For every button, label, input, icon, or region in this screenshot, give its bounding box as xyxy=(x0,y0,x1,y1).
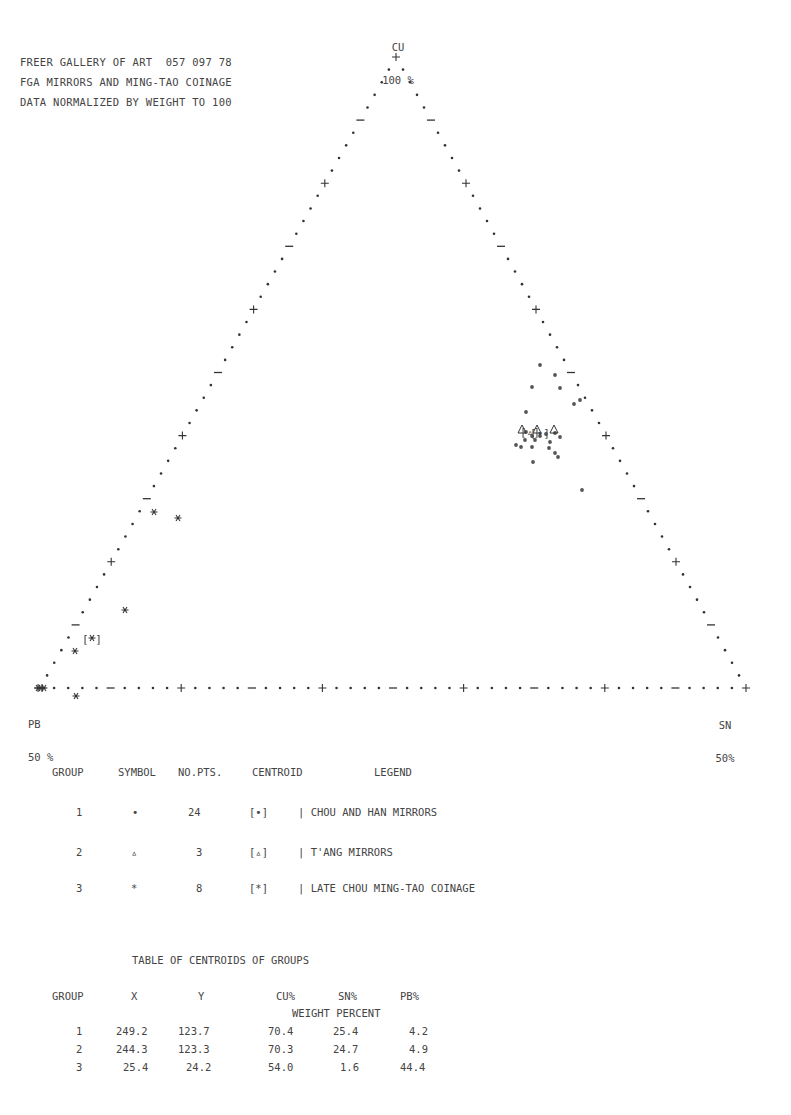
frame-dot xyxy=(67,687,70,690)
frame-dot xyxy=(472,195,475,198)
frame-dot xyxy=(416,94,419,97)
frame-dot xyxy=(618,687,621,690)
tick-plus xyxy=(250,305,258,313)
frame-dot xyxy=(81,611,84,614)
frame-dot xyxy=(689,586,692,589)
frame-dot xyxy=(703,611,706,614)
frame-dot xyxy=(619,460,622,463)
frame-dot xyxy=(167,460,170,463)
data-point-group3-asterisk xyxy=(73,693,80,699)
frame-dot xyxy=(366,106,369,109)
centroid-header-y: Y xyxy=(198,990,204,1002)
frame-dot xyxy=(117,548,120,551)
tick-plus xyxy=(602,432,610,440)
centroid-row-2-cu: 70.3 xyxy=(268,1043,293,1055)
tick-plus xyxy=(601,684,609,692)
data-point-group1 xyxy=(580,488,584,492)
frame-dot xyxy=(388,68,391,71)
centroid-row-1-group: 1 xyxy=(76,1025,82,1037)
frame-dot xyxy=(349,687,352,690)
frame-dot xyxy=(547,687,550,690)
data-point-group3-asterisk xyxy=(175,515,182,521)
frame-dot xyxy=(668,548,671,551)
tick-plus xyxy=(460,684,468,692)
centroid-row-2-y: 123.3 xyxy=(178,1043,210,1055)
frame-dot xyxy=(724,649,727,652)
frame-dot xyxy=(507,258,510,261)
frame-dot xyxy=(259,295,262,298)
frame-dot xyxy=(363,687,366,690)
frame-dot xyxy=(208,687,211,690)
frame-dot xyxy=(486,220,489,223)
frame-dot xyxy=(505,687,508,690)
centroid-row-1-sn: 25.4 xyxy=(333,1025,358,1037)
legend-row-1-npts: 24 xyxy=(188,806,201,818)
centroid-row-2-group: 2 xyxy=(76,1043,82,1055)
centroid-row-1-y: 123.7 xyxy=(178,1025,210,1037)
frame-dot xyxy=(493,232,496,235)
frame-dot xyxy=(661,535,664,538)
frame-dot xyxy=(236,687,239,690)
centroid-row-3-cu: 54.0 xyxy=(268,1061,293,1073)
frame-dot xyxy=(660,687,663,690)
centroid-row-3-pb: 44.4 xyxy=(400,1061,425,1073)
legend-table: GROUP SYMBOL NO.PTS. CENTROID LEGEND 1 •… xyxy=(0,760,791,900)
frame-dot xyxy=(152,687,155,690)
centroid-header-cu: CU% xyxy=(276,990,295,1002)
data-point-group3-asterisk xyxy=(72,648,79,654)
frame-dot xyxy=(479,207,482,210)
frame-dot xyxy=(682,573,685,576)
data-point-group1 xyxy=(553,451,557,455)
ternary-plot: [ ][•][▵] xyxy=(0,0,791,740)
frame-dot xyxy=(556,346,559,349)
data-point-group3-asterisk xyxy=(122,607,129,613)
frame-dot xyxy=(265,687,268,690)
frame-dot xyxy=(352,131,355,134)
frame-dot xyxy=(188,422,191,425)
tick-plus xyxy=(392,53,400,61)
frame-dot xyxy=(542,321,545,324)
data-point-group1 xyxy=(538,363,542,367)
centroid-table: TABLE OF CENTROIDS OF GROUPS GROUP X Y C… xyxy=(0,950,791,1090)
frame-dot xyxy=(316,195,319,198)
data-point-group1 xyxy=(524,410,528,414)
frame-dot xyxy=(138,510,141,513)
frame-dot xyxy=(451,157,454,160)
legend-row-2-symbol: ▵ xyxy=(131,846,137,858)
frame-dot xyxy=(309,207,312,210)
legend-row-3-centroid: [*] xyxy=(249,882,268,894)
tick-plus xyxy=(178,432,186,440)
frame-dot xyxy=(409,81,412,84)
data-point-group1 xyxy=(514,443,518,447)
tick-plus xyxy=(318,684,326,692)
frame-dot xyxy=(434,687,437,690)
frame-dot xyxy=(561,687,564,690)
data-point-group1 xyxy=(558,386,562,390)
frame-dot xyxy=(519,687,522,690)
frame-dot xyxy=(274,270,277,273)
centroid-row-2-pb: 4.9 xyxy=(409,1043,428,1055)
legend-row-3-legend: | LATE CHOU MING-TAO COINAGE xyxy=(298,882,475,894)
frame-dot xyxy=(380,81,383,84)
frame-dot xyxy=(124,535,127,538)
frame-dot xyxy=(131,523,134,526)
centroid-row-3-sn: 1.6 xyxy=(340,1061,359,1073)
frame-dot xyxy=(528,295,531,298)
centroid-marker-group3: [ ] xyxy=(82,633,102,646)
frame-dot xyxy=(402,68,405,71)
data-point-group1 xyxy=(531,460,535,464)
frame-dot xyxy=(731,661,734,664)
centroid-row-1-pb: 4.2 xyxy=(409,1025,428,1037)
frame-dot xyxy=(238,333,241,336)
frame-dot xyxy=(281,258,284,261)
frame-dot xyxy=(717,636,720,639)
tick-plus xyxy=(532,305,540,313)
frame-dot xyxy=(626,472,629,475)
frame-dot xyxy=(81,687,84,690)
tick-plus xyxy=(177,684,185,692)
legend-row-2-legend: | T'ANG MIRRORS xyxy=(298,846,393,858)
frame-dot xyxy=(174,447,177,450)
frame-dot xyxy=(295,232,298,235)
centroid-subheader: WEIGHT PERCENT xyxy=(292,1007,381,1019)
frame-dot xyxy=(521,283,524,286)
